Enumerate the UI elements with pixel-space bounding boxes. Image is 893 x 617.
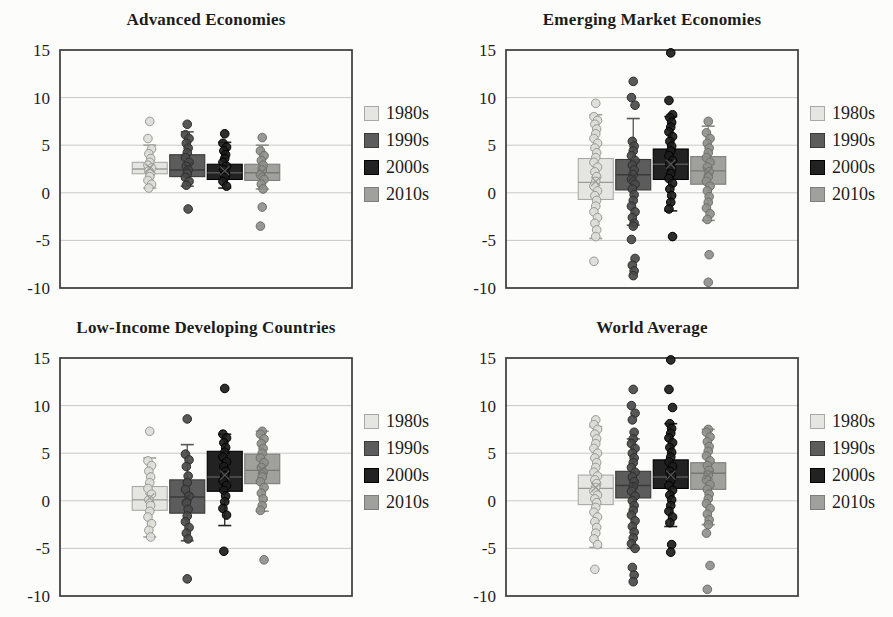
legend-item-2010s: 2010s bbox=[364, 493, 429, 511]
y-axis-tick-label: -5 bbox=[36, 539, 50, 558]
data-point bbox=[702, 529, 711, 538]
y-axis-tick-label: -5 bbox=[482, 231, 496, 250]
legend-item-1990s: 1990s bbox=[364, 439, 429, 457]
data-point bbox=[258, 133, 267, 142]
legend-swatch-2000s bbox=[810, 160, 825, 175]
legend-label: 1980s bbox=[832, 104, 875, 122]
plot-frame bbox=[60, 50, 352, 288]
legend-item-1990s: 1990s bbox=[810, 131, 875, 149]
data-point bbox=[703, 215, 712, 224]
legend-item-1990s: 1990s bbox=[364, 131, 429, 149]
legend-swatch-1980s bbox=[364, 106, 379, 121]
y-axis-tick-label: 10 bbox=[33, 89, 50, 108]
legend: 1980s1990s2000s2010s bbox=[364, 104, 429, 203]
data-point bbox=[260, 556, 269, 565]
data-point bbox=[703, 585, 712, 594]
y-axis-tick-label: 10 bbox=[479, 397, 496, 416]
legend-swatch-1990s bbox=[364, 133, 379, 148]
data-point bbox=[220, 129, 229, 138]
data-point bbox=[629, 577, 638, 586]
data-point bbox=[591, 232, 600, 241]
y-axis-tick-label: -10 bbox=[27, 279, 50, 298]
legend-swatch-1990s bbox=[810, 441, 825, 456]
y-axis-tick-label: 15 bbox=[479, 41, 496, 60]
data-point bbox=[704, 520, 713, 529]
y-axis-tick-label: 15 bbox=[479, 349, 496, 368]
y-axis-tick-label: 5 bbox=[488, 136, 497, 155]
data-point bbox=[628, 416, 637, 425]
plot-frame bbox=[506, 358, 798, 596]
legend-swatch-1990s bbox=[810, 133, 825, 148]
legend-label: 1980s bbox=[386, 412, 429, 430]
data-point bbox=[220, 547, 229, 556]
data-point bbox=[631, 544, 640, 553]
legend-item-1980s: 1980s bbox=[810, 412, 875, 430]
legend-label: 2000s bbox=[832, 158, 875, 176]
y-axis-tick-label: -10 bbox=[473, 587, 496, 606]
data-point bbox=[631, 101, 640, 110]
plot-frame bbox=[506, 50, 798, 288]
legend-item-1980s: 1980s bbox=[810, 104, 875, 122]
y-axis-tick-label: -10 bbox=[27, 587, 50, 606]
data-point bbox=[627, 235, 636, 244]
legend-swatch-1990s bbox=[364, 441, 379, 456]
legend-label: 1990s bbox=[386, 439, 429, 457]
data-point bbox=[182, 462, 191, 471]
y-axis-tick-label: 0 bbox=[488, 492, 497, 511]
data-point bbox=[145, 117, 154, 126]
panel-low-income-developing-countries: Low-Income Developing Countries 151050-5… bbox=[0, 308, 446, 616]
legend-item-1980s: 1980s bbox=[364, 412, 429, 430]
y-axis-tick-label: 10 bbox=[33, 397, 50, 416]
y-axis-tick-label: 15 bbox=[33, 41, 50, 60]
data-point bbox=[182, 181, 191, 190]
data-point bbox=[145, 427, 154, 436]
data-point bbox=[145, 184, 154, 193]
legend-label: 1990s bbox=[386, 131, 429, 149]
y-axis-tick-label: 5 bbox=[488, 444, 497, 463]
legend-swatch-2010s bbox=[810, 187, 825, 202]
boxplot-figure: Advanced Economies 151050-5-10 1980s1990… bbox=[0, 0, 893, 617]
legend-item-2000s: 2000s bbox=[364, 466, 429, 484]
y-axis-tick-label: 0 bbox=[42, 492, 51, 511]
data-point bbox=[222, 511, 231, 520]
data-point bbox=[256, 222, 265, 231]
data-point bbox=[668, 403, 677, 412]
legend-label: 2010s bbox=[386, 493, 429, 511]
legend-item-2000s: 2000s bbox=[810, 466, 875, 484]
legend-swatch-2010s bbox=[810, 495, 825, 510]
legend-label: 2010s bbox=[832, 493, 875, 511]
data-point bbox=[629, 222, 638, 231]
data-point bbox=[183, 120, 192, 129]
legend-label: 1980s bbox=[832, 412, 875, 430]
data-point bbox=[256, 506, 265, 515]
y-axis-tick-label: -5 bbox=[36, 231, 50, 250]
data-point bbox=[184, 205, 193, 214]
legend-label: 1980s bbox=[386, 104, 429, 122]
legend: 1980s1990s2000s2010s bbox=[810, 412, 875, 511]
legend-item-2010s: 2010s bbox=[364, 185, 429, 203]
y-axis-tick-label: 15 bbox=[33, 349, 50, 368]
data-point bbox=[706, 561, 715, 570]
legend-item-2000s: 2000s bbox=[810, 158, 875, 176]
legend-swatch-2010s bbox=[364, 495, 379, 510]
y-axis-tick-label: -5 bbox=[482, 539, 496, 558]
data-point bbox=[668, 232, 677, 241]
legend-label: 2000s bbox=[832, 466, 875, 484]
legend-label: 1990s bbox=[832, 439, 875, 457]
data-point bbox=[665, 205, 674, 214]
legend-swatch-2000s bbox=[364, 468, 379, 483]
legend-item-2010s: 2010s bbox=[810, 185, 875, 203]
y-axis-tick-label: 0 bbox=[42, 184, 51, 203]
data-point bbox=[666, 548, 675, 557]
legend-swatch-2000s bbox=[364, 160, 379, 175]
legend: 1980s1990s2000s2010s bbox=[364, 412, 429, 511]
legend-label: 1990s bbox=[832, 131, 875, 149]
data-point bbox=[629, 271, 638, 280]
plot-frame bbox=[60, 358, 352, 596]
data-point bbox=[665, 385, 674, 394]
legend-item-2000s: 2000s bbox=[364, 158, 429, 176]
data-point bbox=[629, 385, 638, 394]
legend-label: 2010s bbox=[832, 185, 875, 203]
panel-emerging-market-economies: Emerging Market Economies 151050-5-10 19… bbox=[446, 0, 892, 308]
data-point bbox=[705, 250, 714, 259]
